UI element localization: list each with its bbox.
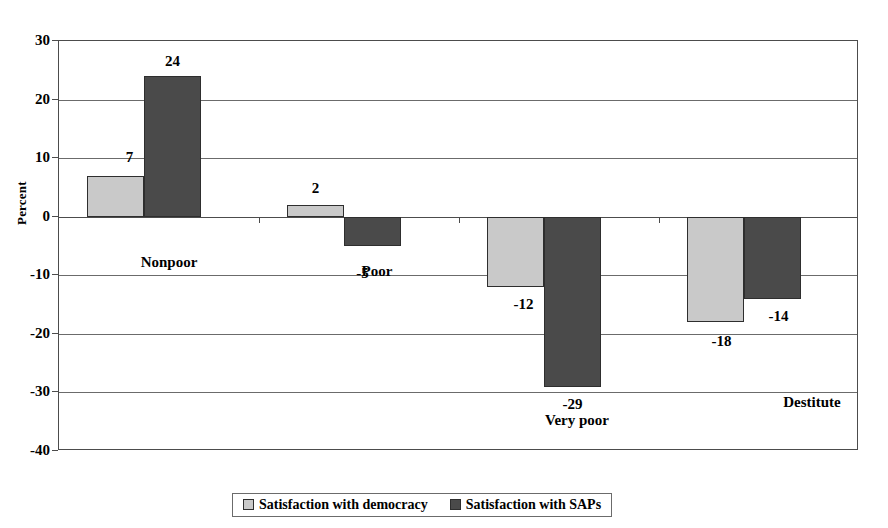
bar — [544, 217, 601, 387]
bar — [344, 217, 401, 246]
bar — [87, 176, 144, 217]
bar — [744, 217, 801, 299]
category-tick-mark — [659, 217, 660, 223]
y-axis-tick-label: -30 — [10, 384, 50, 399]
category-label: Nonpoor — [99, 255, 239, 270]
bar-chart: Percent 3020100-10-20-30-40 7242-5-12-29… — [0, 0, 888, 528]
bar-value-label: -14 — [750, 309, 807, 324]
chart-legend: Satisfaction with democracy Satisfaction… — [232, 493, 612, 517]
bar — [287, 205, 344, 217]
bar-value-label: 7 — [101, 150, 158, 165]
light-gray-swatch-icon — [243, 499, 254, 510]
bar — [144, 76, 201, 217]
y-axis-tick-label: 10 — [10, 150, 50, 165]
y-axis-tick-label: 0 — [10, 208, 50, 223]
bar — [487, 217, 544, 287]
bar-value-label: -12 — [495, 297, 552, 312]
legend-label-0: Satisfaction with democracy — [259, 498, 428, 512]
bar-value-label: 24 — [144, 54, 201, 69]
dark-gray-swatch-icon — [450, 499, 461, 510]
category-label: Poor — [317, 264, 437, 279]
bar-value-label: -18 — [693, 334, 750, 349]
legend-label-1: Satisfaction with SAPs — [466, 498, 601, 512]
gridline — [59, 392, 857, 393]
category-label: Very poor — [497, 413, 657, 428]
y-axis-tick-label: 20 — [10, 91, 50, 106]
category-tick-mark — [259, 217, 260, 223]
y-axis-tick-label: -20 — [10, 325, 50, 340]
y-axis-tick-label: -10 — [10, 267, 50, 282]
y-axis-tick-label: -40 — [10, 443, 50, 458]
y-axis-tick-mark — [52, 450, 58, 451]
legend-item-1: Satisfaction with SAPs — [450, 498, 601, 512]
legend-item-0: Satisfaction with democracy — [243, 498, 428, 512]
category-label: Destitute — [737, 395, 887, 410]
bar — [687, 217, 744, 322]
y-axis-tick-label: 30 — [10, 33, 50, 48]
bar-value-label: 2 — [287, 181, 344, 196]
bar-value-label: -29 — [544, 397, 601, 412]
category-tick-mark — [459, 217, 460, 223]
plot-area: 7242-5-12-29-18-14 NonpoorPoorVery poorD… — [58, 40, 858, 450]
